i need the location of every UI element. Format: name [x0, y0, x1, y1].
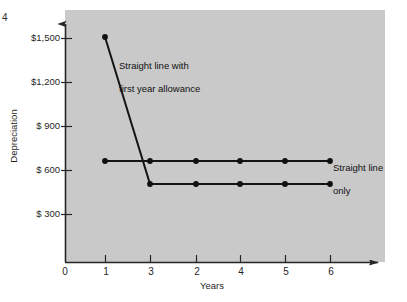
depreciation-chart-figure: 4	[0, 0, 407, 302]
data-point	[193, 181, 199, 187]
y-axis-title: Depreciation	[9, 96, 19, 176]
x-axis	[65, 255, 378, 263]
annotation-first-year-line-2: first year allowance	[119, 83, 200, 95]
y-tick-label-300: $ 300	[36, 209, 60, 219]
data-point	[237, 181, 243, 187]
data-point	[282, 181, 288, 187]
annotation-straight-only-line-1: Straight line	[333, 162, 383, 174]
data-point	[282, 158, 288, 164]
y-tick-label-600: $ 600	[36, 165, 60, 175]
annotation-straight-only-line-2: only	[333, 185, 383, 197]
x-tick-label-0: 0	[55, 266, 75, 277]
x-tick-label-1: 1	[96, 266, 116, 277]
annotation-first-year-line-1: Straight line with	[119, 60, 200, 72]
y-tick-label-900: $ 900	[36, 121, 60, 131]
x-axis-ticks	[106, 255, 331, 262]
y-axis-ticks	[61, 39, 72, 215]
y-axis	[61, 24, 72, 262]
annotation-straight-line-only: Straight line only	[333, 150, 383, 208]
x-tick-label-4: 4	[231, 266, 251, 277]
x-tick-label-6: 6	[321, 266, 341, 277]
data-point	[147, 158, 153, 164]
y-tick-label-1200: $1,200	[31, 77, 60, 87]
x-tick-label-5: 5	[276, 266, 296, 277]
x-tick-label-3: 2	[187, 266, 207, 277]
data-point	[102, 158, 108, 164]
y-tick-label-1500: $1,500	[31, 33, 60, 43]
x-axis-title: Years	[182, 281, 242, 291]
data-point	[193, 158, 199, 164]
data-point	[102, 34, 108, 40]
data-point	[237, 158, 243, 164]
annotation-first-year-allowance: Straight line with first year allowance	[119, 48, 200, 106]
x-tick-label-2: 3	[141, 266, 161, 277]
series-straight-line-only	[102, 158, 333, 164]
data-point	[147, 181, 153, 187]
